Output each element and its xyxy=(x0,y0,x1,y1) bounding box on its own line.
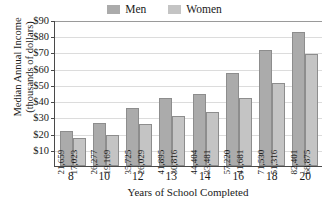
x-axis-title: Years of School Completed xyxy=(54,186,322,198)
y-axis-tick-label: $70 xyxy=(33,48,49,58)
y-axis-tick-mark xyxy=(51,151,55,152)
y-axis-tick-label: $10 xyxy=(33,146,49,156)
y-axis-tick-label: $40 xyxy=(33,97,49,107)
x-axis-tick-label: 12 xyxy=(121,170,155,182)
legend-swatch-women xyxy=(168,5,181,14)
x-axis-tick-label: 18 xyxy=(255,170,289,182)
y-axis-title-line-1: Median Annual Income xyxy=(12,17,25,116)
plot-area: $10$20$30$40$50$60$70$80$90 21,65917,023… xyxy=(54,21,322,167)
y-axis-tick-label: $50 xyxy=(33,81,49,91)
legend-label-women: Women xyxy=(186,4,221,15)
x-axis-tick-label: 10 xyxy=(88,170,122,182)
y-axis-tick-label: $90 xyxy=(33,16,49,26)
y-axis-tick-label: $80 xyxy=(33,32,49,42)
y-axis-tick-label: $60 xyxy=(33,65,49,75)
y-axis-tick-mark xyxy=(51,21,55,22)
bar-group: 71,53051,316 xyxy=(256,21,289,166)
y-axis-tick-mark xyxy=(51,135,55,136)
y-axis-tick-mark xyxy=(51,118,55,119)
x-axis-tick-label: 13 xyxy=(155,170,189,182)
x-axis-tick-label: 8 xyxy=(54,170,88,182)
bar-group: 35,72526,029 xyxy=(123,21,156,166)
legend-entry-men: Men xyxy=(107,4,146,15)
y-axis-tick-mark xyxy=(51,70,55,71)
y-axis-tick-label: $30 xyxy=(33,113,49,123)
bar-women: 19,169 xyxy=(106,135,119,166)
bar-group: 21,65917,023 xyxy=(56,21,89,166)
legend-entry-women: Women xyxy=(168,4,221,15)
x-axis-tick-label: 16 xyxy=(222,170,256,182)
legend-swatch-men xyxy=(107,5,120,14)
legend-label-men: Men xyxy=(125,4,146,15)
bar-women: 26,029 xyxy=(139,124,152,166)
bar-group: 82,40168,875 xyxy=(289,21,322,166)
x-axis-tick-label: 14 xyxy=(188,170,222,182)
bar-women: 51,316 xyxy=(272,83,285,166)
bar-groups: 21,65917,02326,27719,16935,72526,02941,8… xyxy=(56,21,322,166)
bar-women: 30,816 xyxy=(172,116,185,166)
y-axis-tick-mark xyxy=(51,53,55,54)
y-axis-tick-mark xyxy=(51,37,55,38)
bar-group: 26,27719,169 xyxy=(89,21,122,166)
y-axis-tick-label: $20 xyxy=(33,130,49,140)
bar-group: 57,22041,681 xyxy=(222,21,255,166)
y-axis-tick-mark xyxy=(51,86,55,87)
bar-women: 41,681 xyxy=(239,98,252,166)
x-axis-tick-labels: 810121314161820 xyxy=(54,170,322,182)
bar-women: 17,023 xyxy=(73,138,86,166)
bar-women: 33,481 xyxy=(206,112,219,166)
grouped-bar-chart: Men Women Median Annual Income (thousand… xyxy=(0,0,329,206)
bar-women: 68,875 xyxy=(305,54,318,166)
bar-men: 82,401 xyxy=(292,32,305,166)
bar-group: 41,89530,816 xyxy=(156,21,189,166)
chart-legend: Men Women xyxy=(0,2,329,17)
bar-group: 44,40433,481 xyxy=(189,21,222,166)
y-axis-tick-mark xyxy=(51,102,55,103)
x-axis-tick-label: 20 xyxy=(289,170,323,182)
